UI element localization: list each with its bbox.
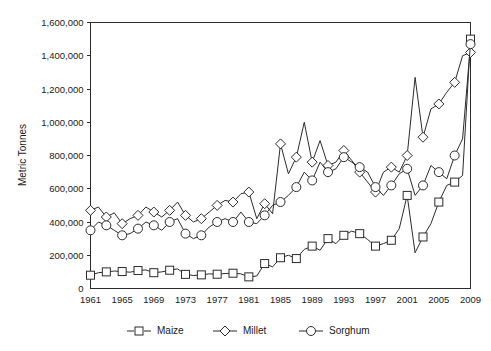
data-point-maize [261,260,269,268]
data-point-sorghum [324,168,333,177]
data-point-maize [197,271,205,279]
data-point-maize [134,267,142,275]
data-point-millet [450,77,460,87]
data-point-maize [277,254,285,262]
y-tick-label: 1,000,000 [41,117,83,128]
data-point-maize [356,230,364,238]
x-tick-label: 1993 [333,294,354,305]
data-point-maize [387,236,395,244]
plot-border [91,23,471,289]
data-point-millet [307,157,317,167]
data-point-maize [451,178,459,186]
data-point-maize [435,198,443,206]
y-tick-label: 1,600,000 [41,17,83,28]
legend-item-millet[interactable]: Millet [213,325,267,336]
data-point-maize [292,255,300,263]
legend-marker-circle [307,327,316,336]
data-point-maize [403,191,411,199]
data-point-sorghum [213,218,222,227]
data-point-sorghum [244,218,253,227]
legend-marker-diamond [220,326,230,336]
x-tick-label: 1969 [143,294,164,305]
x-tick-label: 1973 [175,294,196,305]
x-tick-label: 1981 [238,294,259,305]
data-point-millet [402,151,412,161]
data-point-maize [118,268,126,276]
data-point-sorghum [339,153,348,162]
data-series-group [86,35,476,281]
data-point-millet [117,219,127,229]
data-point-maize [340,231,348,239]
x-tick-label: 2009 [460,294,481,305]
y-tick-label: 400,000 [49,217,83,228]
legend-item-sorghum[interactable]: Sorghum [299,325,370,336]
data-point-sorghum [403,164,412,173]
y-tick-label: 600,000 [49,183,83,194]
data-point-maize [166,266,174,274]
chart-container: Metric Tonnes 0200,000400,000600,000800,… [0,0,491,351]
data-point-sorghum [181,229,190,238]
data-point-maize [182,270,190,278]
data-point-millet [86,205,96,215]
data-point-sorghum [197,231,206,240]
x-tick-label: 1961 [80,294,101,305]
data-point-millet [291,152,301,162]
legend-marker-square [135,327,143,335]
x-tick-label: 1985 [270,294,291,305]
series-maize [87,35,475,281]
y-tick-label: 800,000 [49,150,83,161]
data-point-sorghum [165,218,174,227]
data-point-sorghum [355,163,364,172]
data-point-sorghum [387,181,396,190]
x-tick-label: 2001 [397,294,418,305]
legend-label-maize: Maize [157,325,184,336]
data-point-sorghum [371,183,380,192]
y-axis-title: Metric Tonnes [17,124,28,186]
legend-label-sorghum: Sorghum [329,325,370,336]
data-point-sorghum [308,176,317,185]
data-point-maize [372,242,380,250]
data-point-maize [87,271,95,279]
data-point-sorghum [102,221,111,230]
series-line-maize [91,39,471,277]
y-axis-ticks: 0200,000400,000600,000800,0001,000,0001,… [41,17,90,294]
legend-item-maize[interactable]: Maize [127,325,184,336]
x-tick-label: 1997 [365,294,386,305]
data-point-sorghum [292,183,301,192]
data-point-sorghum [149,221,158,230]
data-point-maize [308,242,316,250]
data-point-maize [213,270,221,278]
x-axis-ticks: 1961196519691973197719811985198919931997… [80,294,481,305]
data-point-maize [419,233,427,241]
data-point-sorghum [466,40,475,49]
plot-frame [91,23,471,289]
data-point-millet [386,162,396,172]
x-tick-label: 2005 [428,294,449,305]
line-chart: Metric Tonnes 0200,000400,000600,000800,… [0,0,491,351]
data-point-maize [245,273,253,281]
y-tick-label: 0 [78,283,83,294]
data-point-millet [244,187,254,197]
y-tick-label: 1,400,000 [41,50,83,61]
data-point-millet [276,139,286,149]
data-point-sorghum [134,224,143,233]
data-point-maize [102,268,110,276]
data-point-sorghum [260,211,269,220]
data-point-maize [150,269,158,277]
data-point-sorghum [450,151,459,160]
x-tick-label: 1977 [207,294,228,305]
data-point-millet [149,207,159,217]
x-tick-label: 1965 [112,294,133,305]
data-point-maize [229,269,237,277]
data-point-maize [324,235,332,243]
data-point-millet [434,99,444,109]
data-point-sorghum [118,231,127,240]
data-point-sorghum [419,181,428,190]
data-point-sorghum [276,198,285,207]
y-tick-label: 200,000 [49,250,83,261]
data-point-sorghum [86,226,95,235]
data-point-sorghum [434,168,443,177]
chart-legend: MaizeMilletSorghum [127,325,370,336]
x-tick-label: 1989 [302,294,323,305]
data-point-sorghum [229,218,238,227]
